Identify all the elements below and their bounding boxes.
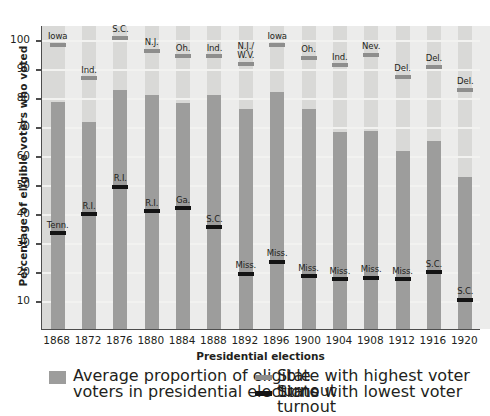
column-band <box>253 26 270 329</box>
highest-turnout-marker[interactable] <box>363 53 379 57</box>
highest-turnout-marker[interactable] <box>332 63 348 67</box>
bar[interactable] <box>427 141 441 329</box>
lowest-turnout-marker[interactable] <box>269 260 285 264</box>
column-band <box>441 26 458 329</box>
column-band <box>284 26 301 329</box>
x-axis-title: Presidential elections <box>41 350 480 362</box>
y-tick-label: 80 <box>2 91 30 103</box>
y-tick-label: 60 <box>2 149 30 161</box>
highest-turnout-marker[interactable] <box>395 75 411 79</box>
lowest-turnout-marker[interactable] <box>426 270 442 274</box>
lowest-turnout-state-label: Miss. <box>224 261 268 270</box>
bar[interactable] <box>458 177 472 329</box>
highest-turnout-marker[interactable] <box>112 36 128 40</box>
bar[interactable] <box>364 131 378 329</box>
legend-swatch-bar <box>49 371 66 384</box>
column-band <box>190 26 207 329</box>
highest-turnout-state-label: Nev. <box>349 42 393 51</box>
chart-legend: Average proportion of eligible voters in… <box>41 366 489 404</box>
column-band <box>316 26 333 329</box>
lowest-turnout-state-label: Tenn. <box>36 221 80 230</box>
y-tick-label: 100 <box>2 33 30 45</box>
highest-turnout-marker[interactable] <box>269 43 285 47</box>
lowest-turnout-state-label: S.C. <box>443 287 487 296</box>
highest-turnout-marker[interactable] <box>206 54 222 58</box>
bar[interactable] <box>207 95 221 330</box>
highest-turnout-state-label: Iowa <box>36 32 80 41</box>
lowest-turnout-marker[interactable] <box>206 225 222 229</box>
lowest-turnout-marker[interactable] <box>112 185 128 189</box>
gridline <box>42 214 480 216</box>
lowest-turnout-marker[interactable] <box>301 274 317 278</box>
y-tick-label: 10 <box>2 294 30 306</box>
x-tick-label: 1920 <box>444 334 484 346</box>
gridline <box>42 185 480 187</box>
bar[interactable] <box>302 109 316 329</box>
bar[interactable] <box>239 109 253 329</box>
y-tick-label: 50 <box>2 178 30 190</box>
highest-turnout-state-label: N.J./ W.V. <box>224 42 268 60</box>
bar[interactable] <box>82 122 96 329</box>
bar[interactable] <box>113 90 127 329</box>
gridline <box>42 243 480 245</box>
lowest-turnout-marker[interactable] <box>332 277 348 281</box>
highest-turnout-marker[interactable] <box>144 49 160 53</box>
y-tick-label: 70 <box>2 120 30 132</box>
lowest-turnout-marker[interactable] <box>50 231 66 235</box>
bar[interactable] <box>176 103 190 329</box>
gridline <box>42 98 480 100</box>
highest-turnout-marker[interactable] <box>457 88 473 92</box>
column-band <box>347 26 364 329</box>
highest-turnout-state-label: S.C. <box>98 25 142 34</box>
lowest-turnout-state-label: S.C. <box>412 260 456 269</box>
lowest-turnout-state-label: R.I. <box>98 174 142 183</box>
column-band <box>472 26 489 329</box>
highest-turnout-state-label: Ind. <box>318 53 362 62</box>
legend-swatch-low <box>255 391 272 396</box>
lowest-turnout-state-label: S.C. <box>192 215 236 224</box>
y-tick-label: 20 <box>2 265 30 277</box>
y-tick-label: 40 <box>2 207 30 219</box>
highest-turnout-state-label: Iowa <box>255 32 299 41</box>
y-tick-label: 90 <box>2 62 30 74</box>
highest-turnout-marker[interactable] <box>50 43 66 47</box>
highest-turnout-state-label: Del. <box>381 64 425 73</box>
gridline <box>42 156 480 158</box>
lowest-turnout-marker[interactable] <box>144 209 160 213</box>
lowest-turnout-state-label: Miss. <box>255 249 299 258</box>
plot-area: IowaInd.S.C.N.J.Oh.Ind.N.J./ W.V.IowaOh.… <box>41 26 480 330</box>
gridline <box>42 127 480 129</box>
lowest-turnout-marker[interactable] <box>395 277 411 281</box>
highest-turnout-state-label: Ind. <box>67 66 111 75</box>
bar[interactable] <box>270 92 284 329</box>
y-tick-label: 30 <box>2 236 30 248</box>
legend-label-bar-line1: Average proportion of eligible <box>73 368 311 383</box>
highest-turnout-marker[interactable] <box>238 62 254 66</box>
column-band <box>221 26 238 329</box>
lowest-turnout-marker[interactable] <box>457 298 473 302</box>
bar[interactable] <box>333 132 347 329</box>
highest-turnout-marker[interactable] <box>426 65 442 69</box>
lowest-turnout-marker[interactable] <box>81 212 97 216</box>
highest-turnout-state-label: Del. <box>412 54 456 63</box>
legend-swatch-high <box>255 375 272 380</box>
bar[interactable] <box>396 151 410 329</box>
lowest-turnout-marker[interactable] <box>238 272 254 276</box>
bar[interactable] <box>51 102 65 329</box>
gridline <box>42 301 480 303</box>
highest-turnout-marker[interactable] <box>81 76 97 80</box>
lowest-turnout-marker[interactable] <box>175 206 191 210</box>
highest-turnout-state-label: Del. <box>443 77 487 86</box>
highest-turnout-marker[interactable] <box>175 54 191 58</box>
lowest-turnout-marker[interactable] <box>363 276 379 280</box>
lowest-turnout-state-label: Ga. <box>161 196 205 205</box>
column-band <box>159 26 176 329</box>
highest-turnout-marker[interactable] <box>301 56 317 60</box>
lowest-turnout-state-label: R.I. <box>67 202 111 211</box>
legend-label-low: State with lowest voter turnout <box>277 384 489 414</box>
